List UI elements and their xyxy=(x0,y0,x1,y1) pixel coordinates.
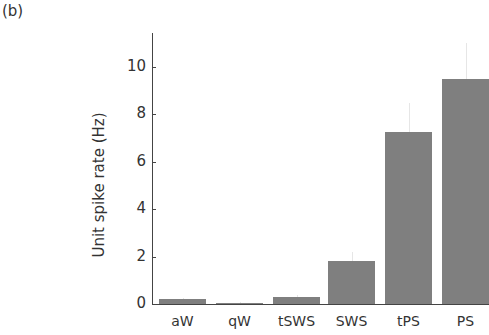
x-category-label: SWS xyxy=(323,313,381,329)
y-tick xyxy=(152,257,156,258)
y-axis-label: Unit spike rate (Hz) xyxy=(90,112,108,257)
y-tick xyxy=(152,162,156,163)
y-tick-label: 4 xyxy=(116,199,146,217)
y-tick-label: 0 xyxy=(116,294,146,312)
error-bar xyxy=(409,103,410,133)
x-category-label: tPS xyxy=(380,313,438,329)
y-tick-label: 8 xyxy=(116,104,146,122)
bar-qw xyxy=(216,303,263,305)
bar-sws xyxy=(328,261,375,304)
x-category-label: qW xyxy=(211,313,269,329)
y-tick-label: 10 xyxy=(116,57,146,75)
panel-label: (b) xyxy=(2,2,23,20)
bar-aw xyxy=(159,299,206,304)
bar-tsws xyxy=(273,297,320,304)
error-bar xyxy=(352,252,353,261)
x-category-label: aW xyxy=(154,313,212,329)
y-tick-label: 2 xyxy=(116,247,146,265)
y-tick xyxy=(152,114,156,115)
x-axis-line xyxy=(152,304,489,305)
x-category-label: PS xyxy=(437,313,489,329)
y-axis-line xyxy=(152,33,153,305)
y-tick xyxy=(152,67,156,68)
y-tick xyxy=(152,209,156,210)
bar-ps xyxy=(442,79,489,304)
y-tick-label: 6 xyxy=(116,152,146,170)
error-bar xyxy=(466,43,467,79)
y-tick xyxy=(152,304,156,305)
x-category-label: tSWS xyxy=(268,313,326,329)
bar-tps xyxy=(385,132,432,304)
